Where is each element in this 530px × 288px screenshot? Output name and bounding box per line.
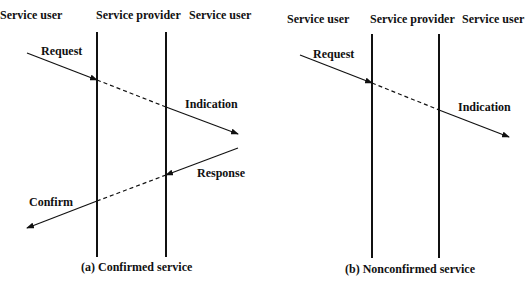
label-indication: Indication [185,97,238,111]
caption-b: (b) Nonconfirmed service [345,262,476,276]
request-transit-dashed-b [372,83,439,110]
header-service-provider: Service provider [96,8,181,22]
label-response: Response [197,166,246,180]
header-service-user-right-b: Service user [462,12,525,26]
response-transit-dashed [97,175,166,201]
service-primitive-diagrams: Service user Service provider Service us… [0,0,530,288]
indication-arrow-b [439,110,509,137]
request-transit-dashed [97,80,166,107]
label-request-b: Request [313,47,354,61]
panel-confirmed-service: Service user Service provider Service us… [0,8,252,274]
panel-nonconfirmed-service: Service user Service provider Service us… [287,12,525,276]
caption-a: (a) Confirmed service [81,260,193,274]
header-service-provider-b: Service provider [370,12,455,26]
label-confirm: Confirm [29,195,73,209]
label-request: Request [41,44,82,58]
header-service-user-left-b: Service user [287,12,350,26]
header-service-user-right: Service user [189,8,252,22]
header-service-user-left: Service user [0,8,63,22]
indication-arrow [166,107,238,134]
label-indication-b: Indication [458,100,511,114]
